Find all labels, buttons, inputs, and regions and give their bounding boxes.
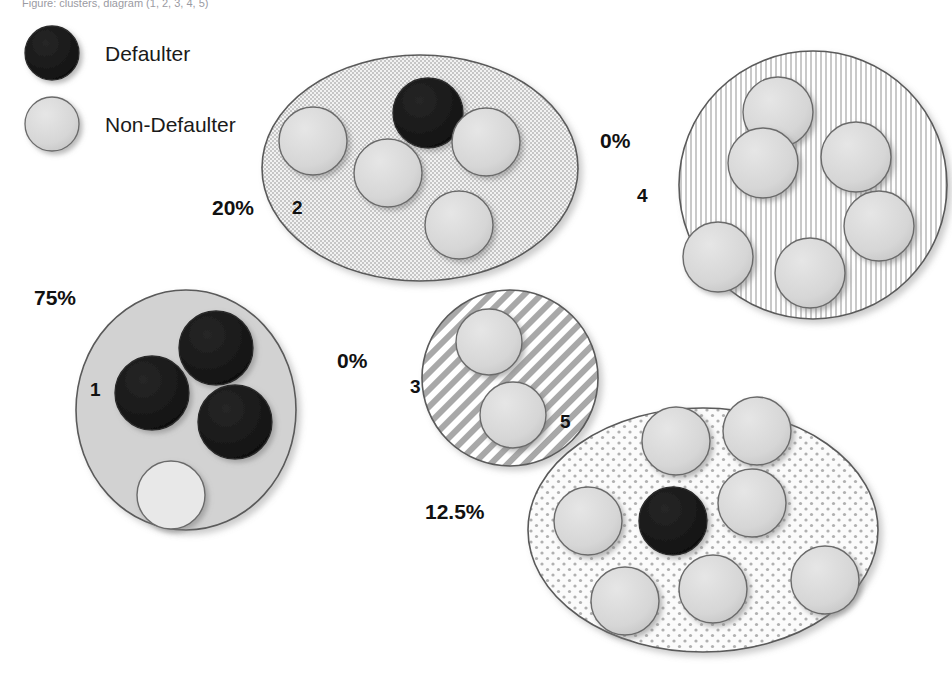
legend-item-defaulter[interactable]: Defaulter bbox=[25, 26, 190, 80]
node-non-defaulter[interactable] bbox=[679, 555, 747, 623]
legend-non-defaulter-label: Non-Defaulter bbox=[105, 113, 236, 136]
node-non-defaulter[interactable] bbox=[844, 191, 914, 261]
top-cut-caption: Figure: clusters, diagram (1, 2, 3, 4, 5… bbox=[22, 0, 208, 9]
diagram-canvas: Figure: clusters, diagram (1, 2, 3, 4, 5… bbox=[0, 0, 952, 680]
node-non-defaulter[interactable] bbox=[728, 128, 798, 198]
cluster-1-percent-label: 75% bbox=[34, 286, 76, 309]
node-non-defaulter[interactable] bbox=[480, 382, 546, 448]
legend-item-non-defaulter[interactable]: Non-Defaulter bbox=[25, 97, 236, 151]
cluster-5-percent-label: 12.5% bbox=[425, 500, 485, 523]
cluster-diagram-svg: Figure: clusters, diagram (1, 2, 3, 4, 5… bbox=[0, 0, 952, 680]
cluster-2[interactable]: 20% 2 bbox=[212, 55, 578, 281]
cluster-3[interactable]: 0% 3 bbox=[337, 290, 598, 466]
node-non-defaulter[interactable] bbox=[821, 122, 891, 192]
node-non-defaulter[interactable] bbox=[279, 107, 347, 175]
legend-defaulter-label: Defaulter bbox=[105, 42, 190, 65]
node-defaulter[interactable] bbox=[179, 311, 253, 385]
node-non-defaulter[interactable] bbox=[425, 191, 493, 259]
node-non-defaulter[interactable] bbox=[354, 139, 422, 207]
node-non-defaulter[interactable] bbox=[718, 469, 786, 537]
top-cut-caption-text: Figure: clusters, diagram (1, 2, 3, 4, 5… bbox=[22, 0, 208, 9]
node-non-defaulter[interactable] bbox=[775, 238, 845, 308]
cluster-1-id-label: 1 bbox=[90, 379, 101, 400]
cluster-3-id-label: 3 bbox=[410, 376, 421, 397]
legend: Defaulter Non-Defaulter bbox=[25, 26, 236, 151]
cluster-2-percent-label: 20% bbox=[212, 196, 254, 219]
node-non-defaulter[interactable] bbox=[591, 567, 659, 635]
node-non-defaulter[interactable] bbox=[456, 309, 522, 375]
node-non-defaulter[interactable] bbox=[137, 461, 205, 529]
node-non-defaulter[interactable] bbox=[452, 108, 520, 176]
node-defaulter[interactable] bbox=[639, 487, 707, 555]
legend-non-defaulter-swatch-icon bbox=[25, 97, 79, 151]
cluster-3-percent-label: 0% bbox=[337, 349, 368, 372]
node-non-defaulter[interactable] bbox=[642, 407, 710, 475]
legend-defaulter-swatch-icon bbox=[25, 26, 79, 80]
node-non-defaulter[interactable] bbox=[723, 397, 791, 465]
cluster-2-id-label: 2 bbox=[292, 197, 303, 218]
node-non-defaulter[interactable] bbox=[554, 487, 622, 555]
node-defaulter[interactable] bbox=[198, 385, 272, 459]
node-defaulter[interactable] bbox=[115, 356, 189, 430]
cluster-4-percent-label: 0% bbox=[600, 129, 631, 152]
cluster-4-id-label: 4 bbox=[637, 185, 648, 206]
node-non-defaulter[interactable] bbox=[683, 222, 753, 292]
cluster-1[interactable]: 75% 1 bbox=[34, 286, 296, 530]
node-non-defaulter[interactable] bbox=[791, 546, 859, 614]
cluster-5-id-label: 5 bbox=[560, 411, 571, 432]
cluster-4[interactable]: 0% 4 bbox=[600, 51, 947, 319]
